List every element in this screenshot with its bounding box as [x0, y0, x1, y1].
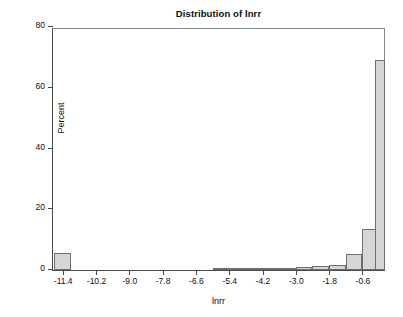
plot-area: Percent 020406080 -11.4-10.2-9.0-7.8-6.6… — [52, 28, 385, 271]
x-axis-tick: -11.4 — [63, 270, 64, 275]
x-axis-tick: -9.0 — [129, 270, 130, 275]
x-axis-tick-label: -5.4 — [222, 276, 237, 286]
x-axis-tick-label: -6.6 — [189, 276, 204, 286]
histogram-bar — [246, 268, 263, 270]
x-axis-tick-label: -4.2 — [256, 276, 271, 286]
x-axis-tick: -10.2 — [96, 270, 97, 275]
x-axis-tick-label: -0.6 — [356, 276, 371, 286]
x-axis-tick: -4.2 — [263, 270, 264, 275]
x-axis-tick: -3.0 — [296, 270, 297, 275]
y-axis-tick-label: 60 — [36, 81, 45, 91]
y-axis-tick: 80 — [48, 26, 53, 27]
x-axis-tick-label: -11.4 — [54, 276, 73, 286]
x-axis-tick: -7.8 — [163, 270, 164, 275]
histogram-bar — [54, 253, 71, 270]
histogram-bar — [229, 268, 246, 270]
x-axis-tick-label: -9.0 — [122, 276, 137, 286]
x-axis-tick-label: -3.0 — [289, 276, 304, 286]
y-axis-tick-label: 80 — [36, 20, 45, 30]
histogram-bar — [213, 268, 230, 270]
histogram-bar — [296, 267, 313, 270]
x-axis-tick: -5.4 — [229, 270, 230, 275]
bars-layer — [53, 29, 384, 270]
y-axis-tick-label: 40 — [36, 142, 45, 152]
histogram-figure: Distribution of lnrr Percent 020406080 -… — [0, 0, 403, 317]
histogram-bar — [329, 265, 346, 270]
x-axis-tick-label: -10.2 — [87, 276, 106, 286]
x-axis-tick-label: -1.8 — [322, 276, 337, 286]
x-axis-label: lnrr — [52, 296, 385, 306]
y-axis-tick-label: 0 — [40, 263, 45, 273]
histogram-bar — [312, 266, 329, 270]
x-axis-tick-label: -7.8 — [156, 276, 171, 286]
histogram-bar — [279, 268, 296, 270]
x-axis-tick: -1.8 — [329, 270, 330, 275]
x-axis-tick: -6.6 — [196, 270, 197, 275]
y-axis-tick-label: 20 — [36, 202, 45, 212]
histogram-bar — [263, 268, 280, 270]
x-axis-tick: -0.6 — [362, 270, 363, 275]
chart-title: Distribution of lnrr — [52, 8, 385, 19]
histogram-bar — [346, 254, 363, 270]
histogram-bar — [375, 60, 385, 270]
